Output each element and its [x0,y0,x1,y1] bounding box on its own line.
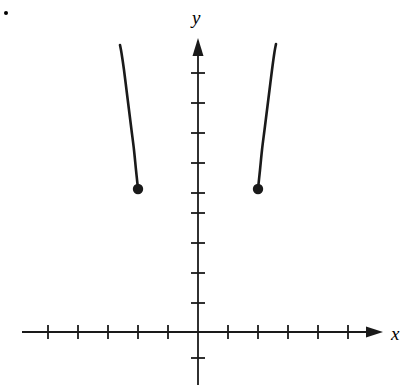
x-axis-arrowhead [366,327,383,338]
left-branch-curve [120,45,138,189]
x-axis-group [22,325,383,339]
graph-figure: y x [0,0,419,392]
left-endpoint-dot [133,184,143,194]
y-axis-group [191,38,205,385]
right-branch-curve [258,44,276,189]
y-axis-arrowhead [193,38,204,56]
x-axis-label: x [391,324,399,343]
right-endpoint-dot [253,184,263,194]
y-axis-label: y [192,8,200,27]
coordinate-plot [0,0,419,392]
